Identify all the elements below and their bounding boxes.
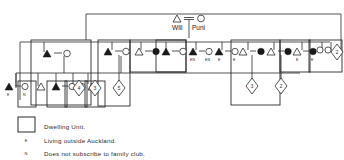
male-symbol: [239, 48, 247, 55]
code-male: EN: [190, 58, 195, 62]
couple-node: EN EN: [189, 48, 212, 62]
couple-node: 2: [267, 48, 291, 94]
couple-node: [162, 48, 186, 55]
female-symbol: [123, 48, 130, 55]
code-female: E: [233, 58, 236, 62]
couple-node: 5: [104, 48, 129, 96]
couple-node: [43, 50, 70, 57]
code-female: E: [311, 58, 314, 62]
sibship-count: 5: [118, 86, 121, 91]
pedigree-diagram-root: .ln{stroke:#2a2a2a;stroke-width:0.8;fill…: [0, 0, 344, 160]
dwelling-unit: [31, 40, 91, 105]
code-male: E: [218, 58, 221, 62]
dwelling-unit: [280, 40, 310, 72]
sibship-count: 3: [94, 86, 97, 91]
male-symbol: [5, 83, 13, 90]
couple-node: 3: [239, 48, 264, 94]
code-female: EN: [205, 58, 210, 62]
female-symbol: [22, 83, 28, 89]
dwelling-unit: [231, 40, 280, 105]
male-symbol: [173, 15, 181, 22]
female-symbol: [317, 47, 323, 53]
couple-node: E E: [293, 48, 316, 62]
founder-couple: Will Puni: [172, 15, 205, 31]
legend-dwelling-swatch: [18, 117, 35, 132]
female-symbol: [285, 48, 292, 55]
sibship-count: 4: [78, 86, 81, 91]
male-symbol: [104, 48, 112, 55]
male-symbol: [52, 83, 60, 90]
sibship-count: 2: [280, 84, 283, 89]
sibship-count: 3: [251, 84, 254, 89]
code-female: N: [23, 93, 26, 97]
couple-node: [135, 48, 159, 55]
legend-text-dwelling: Dwelling Unit.: [44, 123, 85, 130]
female-symbol: [206, 48, 212, 54]
code-male: E: [296, 58, 299, 62]
female-symbol: [310, 48, 317, 55]
female-symbol: [64, 50, 71, 57]
legend-marker-outside: E: [25, 138, 28, 143]
legend-text-outside: Living outside Auckland.: [44, 137, 116, 144]
sibship-count: 2: [336, 50, 339, 55]
code-male: E: [7, 93, 10, 97]
dwelling-unit: [156, 40, 186, 72]
male-symbol: [162, 48, 170, 55]
female-symbol: [198, 15, 205, 22]
female-symbol: [325, 47, 331, 53]
legend: Dwelling Unit. E Living outside Auckland…: [0, 113, 344, 160]
founder-female-name: Puni: [192, 24, 205, 31]
unattached-group: 2: [317, 44, 343, 60]
dwelling-unit: [130, 40, 186, 72]
couple-node: E E: [215, 48, 238, 62]
founder-male-name: Will: [172, 24, 183, 31]
female-symbol: [258, 48, 265, 55]
female-symbol: [180, 48, 187, 55]
legend-text-nosub: Does not subscribe to family club.: [44, 150, 145, 157]
male-symbol: [293, 48, 301, 55]
male-symbol: [135, 48, 143, 55]
legend-marker-nosub: N: [25, 151, 28, 156]
female-symbol: [153, 48, 160, 55]
female-symbol: [232, 48, 238, 54]
